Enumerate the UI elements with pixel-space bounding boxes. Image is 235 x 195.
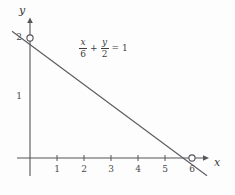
y-axis-label: y [19,5,25,16]
y-tick-label-2: 2 [14,33,24,42]
graph-figure: y x 1 2 1 2 3 4 5 6 x 6 + y 2 = 1 [0,0,235,195]
x-axis-arrowhead [203,155,209,161]
x-tick-label-1: 1 [52,165,62,174]
y-axis-arrowhead [27,18,33,24]
x-tick-label-4: 4 [133,165,143,174]
x-tick-label-5: 5 [160,165,170,174]
x-axis-label: x [214,157,220,168]
fraction-numerator: y [101,38,108,47]
fraction-denominator: 6 [79,50,87,59]
fraction-numerator: x [79,38,86,47]
y-tick-label-1: 1 [14,92,24,101]
y-intercept-marker [27,35,33,41]
equals-operator: = [112,44,120,53]
fraction-y-over-2: y 2 [101,38,109,60]
x-tick-label-2: 2 [79,165,89,174]
equation-annotation: x 6 + y 2 = 1 [78,38,128,60]
x-tick-label-3: 3 [106,165,116,174]
plot-canvas [0,0,235,195]
fraction-denominator: 2 [101,50,109,59]
plus-operator: + [90,44,98,53]
equation-result: 1 [122,44,128,53]
x-intercept-marker [189,155,195,161]
fraction-x-over-6: x 6 [79,38,87,60]
x-tick-label-6: 6 [187,165,197,174]
